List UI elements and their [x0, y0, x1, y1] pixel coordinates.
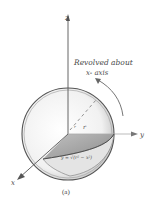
figure-caption: (a) — [62, 188, 70, 196]
x-axis-label: x — [11, 179, 15, 187]
annotation-line-1: Revolved about — [73, 58, 134, 67]
z-axis-label: z — [64, 14, 69, 22]
y-axis-arrow-icon — [131, 132, 138, 137]
y-axis-label: y — [139, 131, 145, 139]
annotation-line-2: x- axis — [86, 69, 109, 77]
radius-tick: ʳ — [74, 124, 76, 131]
sphere-of-revolution-diagram: z y x r ʳ y = √(r² − x²) Revolved about … — [0, 0, 158, 207]
